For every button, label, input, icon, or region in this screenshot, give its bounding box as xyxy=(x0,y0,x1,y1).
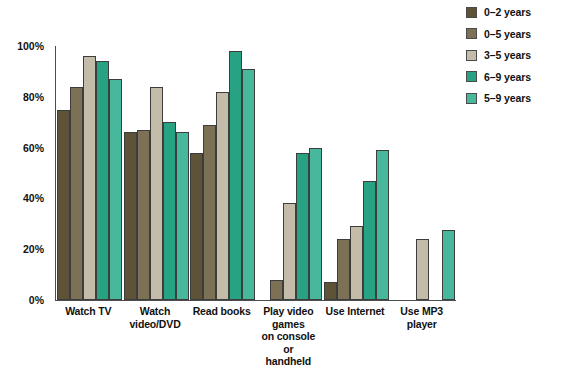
bar-slot xyxy=(416,46,429,300)
bar-slot xyxy=(324,46,337,300)
bar[interactable] xyxy=(416,239,429,300)
bar-slot xyxy=(350,46,363,300)
bar-slot xyxy=(229,46,242,300)
legend-swatch-icon xyxy=(466,28,477,39)
bar-slot xyxy=(57,46,70,300)
x-axis-label-line: handheld xyxy=(256,355,321,368)
bar[interactable] xyxy=(442,230,455,300)
bar-slot xyxy=(296,46,309,300)
bar-slot xyxy=(216,46,229,300)
bar-group xyxy=(389,46,456,300)
legend-label: 5–9 years xyxy=(484,92,531,104)
bar-group xyxy=(123,46,190,300)
bar-slot xyxy=(96,46,109,300)
y-axis-tick-label: 60% xyxy=(23,142,44,154)
bar-slot xyxy=(70,46,83,300)
bar-slot xyxy=(403,46,416,300)
bar-group xyxy=(256,46,323,300)
bar-slot xyxy=(337,46,350,300)
bar-slot xyxy=(242,46,255,300)
bar[interactable] xyxy=(242,69,255,300)
bar-slot xyxy=(190,46,203,300)
x-axis-category-label: Read books xyxy=(188,305,255,352)
bar-slot xyxy=(390,46,403,300)
bar-slot xyxy=(429,46,442,300)
bar-slot xyxy=(150,46,163,300)
bar-slot xyxy=(176,46,189,300)
x-axis-label-line: Read books xyxy=(189,305,254,318)
bar-slot xyxy=(309,46,322,300)
bar-slot xyxy=(109,46,122,300)
x-axis-label-line: Play video games xyxy=(256,305,321,330)
bar-slot xyxy=(376,46,389,300)
bar[interactable] xyxy=(83,56,96,300)
legend-swatch-icon xyxy=(466,93,477,104)
bar[interactable] xyxy=(109,79,122,300)
bar[interactable] xyxy=(309,148,322,300)
legend-swatch-icon xyxy=(466,50,477,61)
bar[interactable] xyxy=(137,130,150,300)
legend-swatch-icon xyxy=(466,71,477,82)
bar[interactable] xyxy=(296,153,309,300)
x-axis-category-label: Watch video/DVD xyxy=(122,305,189,352)
plot-area xyxy=(55,46,456,301)
legend-item[interactable]: 0–2 years xyxy=(466,6,531,18)
bar-slot xyxy=(83,46,96,300)
bar-slot xyxy=(442,46,455,300)
y-axis-tick-label: 0% xyxy=(29,294,44,306)
bar[interactable] xyxy=(270,280,283,300)
legend-item[interactable]: 0–5 years xyxy=(466,28,531,40)
bar[interactable] xyxy=(57,110,70,301)
bar[interactable] xyxy=(203,125,216,300)
legend-item[interactable]: 6–9 years xyxy=(466,71,531,83)
x-axis-label-line: Use MP3 player xyxy=(389,305,454,330)
x-axis-labels: Watch TVWatch video/DVDRead booksPlay vi… xyxy=(55,305,455,352)
bar-slot xyxy=(257,46,270,300)
legend-label: 6–9 years xyxy=(484,71,531,83)
bar[interactable] xyxy=(70,87,83,300)
legend-item[interactable]: 3–5 years xyxy=(466,49,531,61)
bar[interactable] xyxy=(283,203,296,300)
y-axis-tick-label: 80% xyxy=(23,91,44,103)
bar[interactable] xyxy=(163,122,176,300)
y-axis-tick-label: 40% xyxy=(23,192,44,204)
bar-group xyxy=(56,46,123,300)
bar[interactable] xyxy=(216,92,229,300)
bar[interactable] xyxy=(324,282,337,300)
bar[interactable] xyxy=(229,51,242,300)
bar[interactable] xyxy=(376,150,389,300)
x-axis-category-label: Watch TV xyxy=(55,305,122,352)
y-axis-tick-label: 20% xyxy=(23,243,44,255)
chart-legend: 0–2 years0–5 years3–5 years6–9 years5–9 … xyxy=(466,6,531,104)
legend-label: 0–5 years xyxy=(484,28,531,40)
bar[interactable] xyxy=(124,132,137,300)
x-axis-label-line: Use Internet xyxy=(323,305,388,318)
bar[interactable] xyxy=(176,132,189,300)
legend-item[interactable]: 5–9 years xyxy=(466,92,531,104)
bar-slot xyxy=(270,46,283,300)
x-axis-label-line: Watch TV xyxy=(56,305,121,318)
legend-label: 0–2 years xyxy=(484,6,531,18)
legend-swatch-icon xyxy=(466,7,477,18)
bar-slot xyxy=(203,46,216,300)
bar[interactable] xyxy=(150,87,163,300)
y-axis-tick-label: 100% xyxy=(17,40,44,52)
bar-group xyxy=(323,46,390,300)
bar[interactable] xyxy=(337,239,350,300)
bar-groups xyxy=(56,46,456,300)
bar[interactable] xyxy=(190,153,203,300)
x-axis-category-label: Use MP3 player xyxy=(388,305,455,352)
x-axis-category-label: Use Internet xyxy=(322,305,389,352)
bar[interactable] xyxy=(350,226,363,300)
bar[interactable] xyxy=(363,181,376,300)
bar-slot xyxy=(363,46,376,300)
legend-label: 3–5 years xyxy=(484,49,531,61)
bar-slot xyxy=(163,46,176,300)
bar-slot xyxy=(137,46,150,300)
bar[interactable] xyxy=(96,61,109,300)
x-axis-category-label: Play video gameson console orhandheld xyxy=(255,305,322,352)
bar-slot xyxy=(124,46,137,300)
y-axis: 100%80%60%40%20%0% xyxy=(0,36,52,310)
x-axis-label-line: on console or xyxy=(256,330,321,355)
